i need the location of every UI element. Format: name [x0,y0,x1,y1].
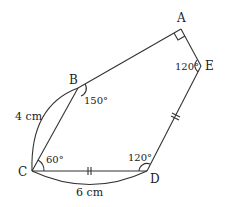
point-label-b: B [69,73,78,87]
edge-ed [147,66,201,171]
length-arc-cd [32,171,147,185]
length-label-bc: 4 cm [15,110,43,123]
geometry-diagram: A E B C D 120° 150° 60° 120° 4 cm 6 cm [0,0,229,207]
length-label-cd: 6 cm [76,186,104,199]
point-label-a: A [176,11,186,25]
point-label-c: C [18,165,27,179]
edge-ab [78,29,181,88]
angle-label-c: 60° [46,154,64,165]
point-label-e: E [205,59,214,73]
angle-label-d: 120° [128,152,152,163]
angle-arc-c [38,160,44,171]
angle-label-e: 120° [175,61,199,72]
point-label-d: D [150,172,160,186]
angle-label-b: 150° [84,95,108,106]
